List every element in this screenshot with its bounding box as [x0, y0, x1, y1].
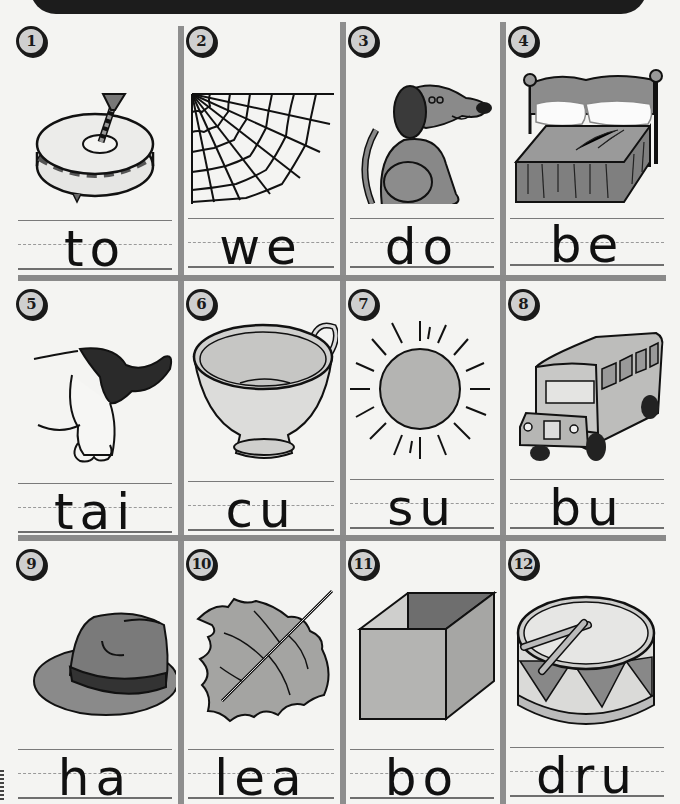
- worksheet-item-12: 12 dru: [506, 543, 668, 804]
- handwriting-lines: bu: [510, 479, 664, 529]
- handwriting-lines: cu: [188, 481, 334, 531]
- worksheet-item-7: 7 su: [346, 283, 498, 535]
- handwriting-lines: ha: [18, 749, 172, 799]
- item-number-badge: 7: [348, 289, 378, 319]
- worksheet-item-8: 8 bu: [506, 283, 668, 535]
- item-number-badge: 2: [186, 26, 216, 56]
- word-text: we: [188, 222, 334, 272]
- handwriting-lines: bo: [350, 749, 494, 799]
- box-icon: [346, 577, 498, 727]
- title-banner: [30, 0, 647, 14]
- page-edge-mark: [0, 770, 4, 800]
- word-text: do: [350, 222, 494, 272]
- dog-tail-icon: [14, 317, 176, 467]
- worksheet-item-4: 4 be: [506, 20, 668, 275]
- bus-icon: [506, 317, 668, 467]
- item-number-badge: 10: [186, 549, 216, 579]
- item-number-badge: 3: [348, 26, 378, 56]
- handwriting-lines: to: [18, 220, 172, 270]
- worksheet-item-1: 1 to: [14, 20, 176, 275]
- handwriting-lines: su: [350, 479, 494, 529]
- worksheet-item-6: 6 cu: [184, 283, 338, 535]
- hat-icon: [14, 577, 176, 727]
- handwriting-lines: dru: [510, 747, 664, 797]
- handwriting-lines: be: [510, 218, 664, 268]
- item-number-badge: 9: [16, 549, 46, 579]
- leaf-icon: [184, 577, 338, 727]
- item-number-badge: 8: [508, 289, 538, 319]
- handwriting-lines: lea: [188, 749, 334, 799]
- word-text: bo: [350, 753, 494, 803]
- word-text: dru: [510, 751, 664, 801]
- worksheet-item-9: 9 ha: [14, 543, 176, 804]
- item-number-badge: 1: [16, 26, 46, 56]
- spider-web-icon: [184, 54, 338, 204]
- word-text: cu: [188, 485, 334, 535]
- word-text: be: [510, 220, 664, 270]
- sun-icon: [346, 317, 498, 467]
- worksheet-item-5: 5 tai: [14, 283, 176, 535]
- spinning-top-icon: [14, 54, 176, 204]
- item-number-badge: 11: [348, 549, 378, 579]
- drum-icon: [506, 577, 668, 727]
- worksheet-item-2: 2 we: [184, 20, 338, 275]
- item-number-badge: 12: [508, 549, 538, 579]
- worksheet-item-11: 11 bo: [346, 543, 498, 804]
- worksheet-item-10: 10 lea: [184, 543, 338, 804]
- word-text: to: [18, 224, 172, 274]
- item-number-badge: 4: [508, 26, 538, 56]
- handwriting-lines: tai: [18, 483, 172, 533]
- word-text: ha: [18, 753, 172, 803]
- handwriting-lines: we: [188, 218, 334, 268]
- word-text: su: [350, 483, 494, 533]
- word-text: tai: [18, 487, 172, 537]
- bed-icon: [506, 54, 668, 204]
- word-text: lea: [188, 753, 334, 803]
- worksheet-item-3: 3 do: [346, 20, 498, 275]
- item-number-badge: 6: [186, 289, 216, 319]
- cup-icon: [184, 317, 338, 467]
- word-text: bu: [510, 483, 664, 533]
- dog-icon: [346, 54, 498, 204]
- item-number-badge: 5: [16, 289, 46, 319]
- handwriting-lines: do: [350, 218, 494, 268]
